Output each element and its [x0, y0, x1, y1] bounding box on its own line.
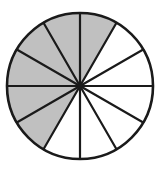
pie-figure-container — [0, 0, 168, 173]
center-point — [77, 83, 82, 88]
pie-chart — [0, 0, 168, 173]
